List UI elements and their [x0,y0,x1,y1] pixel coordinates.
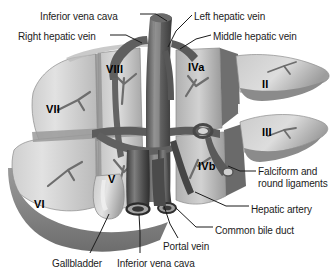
segment-label-IVa: IVa [188,61,205,73]
label-falciform-round-ligaments: Falciform and round ligaments [258,166,334,189]
inferior-vena-cava-distal-tube [126,150,150,208]
label-common-bile-duct: Common bile duct [215,225,294,237]
leader-common-bile-duct [176,208,213,227]
liver-segmental-anatomy-figure: Inferior vena cava Left hepatic vein Rig… [0,0,335,273]
label-left-hepatic-vein: Left hepatic vein [194,11,265,23]
round-ligament-tip [223,168,233,176]
inferior-vena-cava-top-rim [150,14,172,23]
portal-vein-trunk [152,158,166,206]
inferior-vena-cava-lumen [132,206,144,212]
segment-label-VI: VI [34,198,45,210]
label-middle-hepatic-vein: Middle hepatic vein [213,31,297,43]
segment-label-IVb: IVb [198,160,216,172]
label-inferior-vena-cava-bottom: Inferior vena cava [117,258,195,270]
segment-label-III: III [262,126,272,138]
segment-label-VII: VII [46,103,60,115]
label-portal-vein: Portal vein [163,241,209,253]
portal-vein-bifurcation-lumen [198,128,208,134]
segment-III-wing [240,115,328,154]
label-hepatic-artery: Hepatic artery [251,204,312,216]
segment-label-V: V [108,173,116,185]
label-gallbladder: Gallbladder [52,258,102,270]
segment-label-VIII: VIII [106,63,123,75]
label-right-hepatic-vein: Right hepatic vein [18,31,96,43]
segment-VI-block [12,134,98,211]
segment-label-II: II [262,78,269,90]
label-inferior-vena-cava-top: Inferior vena cava [40,11,118,23]
